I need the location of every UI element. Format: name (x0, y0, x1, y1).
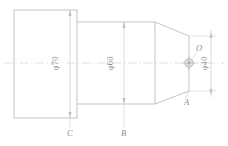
section-extension-lines (70, 104, 124, 128)
dimension-label-dia60: φ60 (106, 47, 115, 79)
dimension-label-dia70: φ70 (51, 47, 60, 79)
point-o-marker (182, 52, 197, 71)
point-label-c: C (67, 129, 73, 138)
cylinder-large-outline (14, 10, 77, 118)
drawing-canvas: φ70 φ60 φ40 C B A O (0, 0, 228, 146)
point-label-b: B (121, 129, 126, 138)
point-label-o: O (196, 44, 202, 53)
point-label-a: A (184, 98, 189, 107)
dimension-line-dia70 (68, 10, 71, 118)
